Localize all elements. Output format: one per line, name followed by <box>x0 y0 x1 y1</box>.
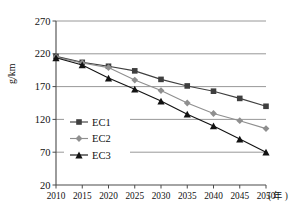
data-point-EC1-2040 <box>211 88 217 94</box>
y-axis-title: g/km <box>6 63 17 84</box>
data-point-EC2-2045 <box>236 117 243 124</box>
data-point-EC3-2035 <box>184 111 191 118</box>
legend-label-EC2: EC2 <box>92 133 111 144</box>
x-tick-label-2020: 2020 <box>99 191 118 201</box>
data-point-EC1-2045 <box>237 96 243 102</box>
data-point-EC3-2040 <box>210 123 217 130</box>
chart-container: 2070120170220270201020152020202520302035… <box>0 0 292 212</box>
x-tick-label-2010: 2010 <box>47 191 66 201</box>
data-point-EC3-2020 <box>105 75 112 82</box>
x-tick-label-2025: 2025 <box>125 191 144 201</box>
y-tick-label-170: 170 <box>35 81 51 92</box>
data-point-EC2-2040 <box>210 110 217 117</box>
x-tick-label-2045: 2045 <box>230 191 249 201</box>
x-tick-label-2015: 2015 <box>73 191 92 201</box>
y-tick-label-270: 270 <box>35 16 51 27</box>
data-point-EC1-2025 <box>132 68 138 74</box>
x-tick-label-2030: 2030 <box>152 191 171 201</box>
y-tick-label-20: 20 <box>40 180 51 191</box>
legend-label-EC3: EC3 <box>92 150 111 161</box>
legend-marker-EC1 <box>76 119 82 125</box>
y-tick-label-220: 220 <box>35 48 51 59</box>
x-tick-label-2040: 2040 <box>204 191 223 201</box>
y-tick-label-70: 70 <box>40 147 51 158</box>
y-tick-label-120: 120 <box>35 114 51 125</box>
data-point-EC1-2050 <box>263 103 269 109</box>
data-point-EC2-2035 <box>184 100 191 107</box>
x-tick-label-2035: 2035 <box>178 191 197 201</box>
data-point-EC3-2030 <box>157 98 164 105</box>
data-point-EC1-2030 <box>158 77 164 83</box>
data-point-EC2-2050 <box>263 125 270 132</box>
legend-label-EC1: EC1 <box>92 117 111 128</box>
x-axis-unit-label: ( 年 ) <box>268 190 288 202</box>
data-point-EC2-2025 <box>131 77 138 84</box>
line-chart: 2070120170220270201020152020202520302035… <box>0 0 292 212</box>
data-point-EC3-2045 <box>236 136 243 143</box>
data-point-EC1-2035 <box>184 83 190 89</box>
data-point-EC2-2030 <box>158 87 165 94</box>
